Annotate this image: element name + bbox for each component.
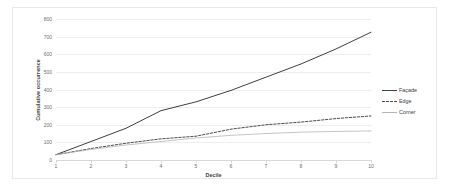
legend-swatch-icon [381,86,398,94]
chart-legend: FaçadeEdgeCorner [381,84,447,117]
x-axis-title: Decile [56,172,371,178]
x-tick-mark-8 [301,160,302,163]
y-tick-label-700: 700 [44,34,52,39]
x-tick-mark-5 [196,160,197,163]
y-tick-label-400: 400 [44,87,52,92]
legend-item-corner[interactable]: Corner [381,106,447,117]
x-axis-title-text: Decile [206,172,222,178]
y-tick-label-600: 600 [44,52,52,57]
y-axis-title: Cumulative occurrence [33,19,43,160]
legend-label: Corner [399,109,415,115]
chart-screenshot: Cumulative occurrence 010020030040050060… [0,0,450,189]
series-line-edge [56,116,371,155]
series-line-corner [56,131,371,155]
y-tick-label-300: 300 [44,105,52,110]
x-tick-label-3: 3 [125,164,128,169]
x-tick-mark-9 [336,160,337,163]
y-tick-label-800: 800 [44,17,52,22]
legend-item-edge[interactable]: Edge [381,95,447,106]
x-tick-label-2: 2 [90,164,93,169]
x-tick-mark-6 [231,160,232,163]
x-tick-mark-4 [161,160,162,163]
x-tick-mark-10 [371,160,372,163]
legend-swatch-icon [381,108,398,116]
x-tick-label-1: 1 [55,164,58,169]
gridline-0 [56,160,371,161]
legend-label: Façade [399,87,417,93]
x-tick-label-10: 10 [368,164,374,169]
x-tick-label-9: 9 [335,164,338,169]
plot-inner: 0100200300400500600700800 12345678910 [56,19,371,160]
x-tick-label-7: 7 [265,164,268,169]
chart-frame: Cumulative occurrence 010020030040050060… [12,7,437,179]
x-tick-mark-7 [266,160,267,163]
plot-area: 0100200300400500600700800 12345678910 [56,19,371,160]
legend-label: Edge [399,98,412,104]
y-tick-label-100: 100 [44,140,52,145]
legend-swatch-icon [381,97,398,105]
y-tick-label-500: 500 [44,69,52,74]
legend-item-faade[interactable]: Façade [381,84,447,95]
series-lines [56,19,371,160]
y-tick-label-200: 200 [44,122,52,127]
y-axis-title-text: Cumulative occurrence [35,59,41,121]
x-tick-label-8: 8 [300,164,303,169]
x-tick-label-4: 4 [160,164,163,169]
x-tick-label-5: 5 [195,164,198,169]
x-tick-label-6: 6 [230,164,233,169]
x-tick-mark-3 [126,160,127,163]
x-tick-mark-2 [91,160,92,163]
y-tick-label-0: 0 [49,158,52,163]
x-tick-mark-1 [56,160,57,163]
